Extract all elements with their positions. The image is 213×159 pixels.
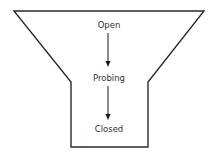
funnel-diagram: Open Probing Closed bbox=[0, 0, 213, 159]
stage-probing-label: Probing bbox=[93, 73, 125, 83]
stage-closed-label: Closed bbox=[95, 124, 124, 134]
stage-open-label: Open bbox=[98, 20, 121, 30]
arrow-open-to-probing bbox=[106, 33, 111, 67]
arrow-probing-to-closed bbox=[106, 86, 111, 120]
